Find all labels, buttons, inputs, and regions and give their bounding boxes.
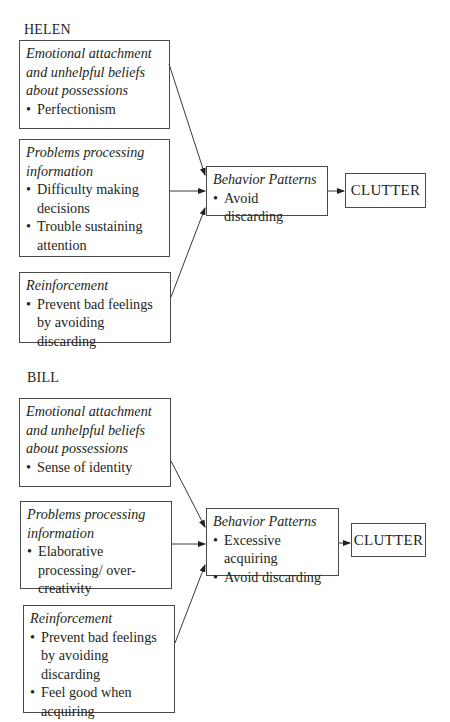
connector-arrows [0, 0, 450, 722]
arrow-icon [171, 461, 205, 527]
arrow-icon [169, 64, 205, 175]
arrow-icon [171, 208, 205, 297]
arrow-icon [175, 565, 205, 643]
